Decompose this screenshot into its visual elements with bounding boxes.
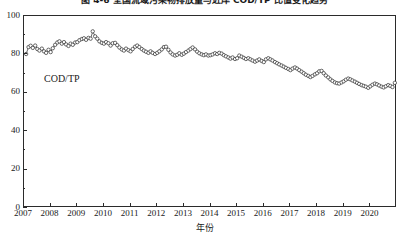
y-tick-label: 100: [0, 11, 20, 20]
y-tick-label: 80: [0, 49, 20, 58]
x-tick-label: 2020: [354, 208, 384, 218]
x-tick-mark: [156, 203, 157, 207]
y-tick-label: 60: [0, 87, 20, 96]
y-tick-minor: [23, 34, 25, 35]
y-tick-mark: [23, 169, 27, 170]
x-tick-mark: [130, 203, 131, 207]
x-tick-label: 2019: [328, 208, 358, 218]
series-plot: [24, 16, 397, 208]
y-tick-label: 20: [0, 164, 20, 173]
x-axis-title: 年份: [0, 223, 409, 234]
x-tick-mark: [236, 203, 237, 207]
x-tick-label: 2008: [35, 208, 65, 218]
x-tick-mark: [369, 203, 370, 207]
y-tick-minor: [23, 111, 25, 112]
x-tick-label: 2017: [274, 208, 304, 218]
x-tick-label: 2015: [221, 208, 251, 218]
x-tick-mark: [210, 203, 211, 207]
x-tick-mark: [50, 203, 51, 207]
series-annotation-label: COD/TP: [44, 73, 80, 84]
y-tick-minor: [23, 73, 25, 74]
x-tick-label: 2009: [61, 208, 91, 218]
x-tick-label: 2018: [301, 208, 331, 218]
y-tick-mark: [23, 53, 27, 54]
y-tick-mark: [23, 130, 27, 131]
y-tick-label: 40: [0, 126, 20, 135]
x-tick-mark: [343, 203, 344, 207]
chart-title: 图 4-6 全国流域污染物排放量与近岸 COD/TP 比值变化趋势: [0, 0, 409, 6]
x-tick-label: 2012: [141, 208, 171, 218]
y-tick-minor: [23, 149, 25, 150]
x-tick-label: 2010: [88, 208, 118, 218]
y-tick-mark: [23, 15, 27, 16]
series-markers-cod-tp: [24, 30, 396, 90]
x-tick-mark: [316, 203, 317, 207]
plot-area: [23, 15, 396, 207]
x-tick-mark: [76, 203, 77, 207]
x-tick-label: 2016: [248, 208, 278, 218]
x-tick-label: 2013: [168, 208, 198, 218]
x-tick-mark: [103, 203, 104, 207]
x-tick-label: 2011: [115, 208, 145, 218]
x-tick-label: 2007: [8, 208, 38, 218]
x-tick-mark: [23, 203, 24, 207]
x-tick-mark: [183, 203, 184, 207]
x-tick-mark: [289, 203, 290, 207]
y-tick-minor: [23, 188, 25, 189]
x-tick-label: 2014: [195, 208, 225, 218]
chart-figure: 图 4-6 全国流域污染物排放量与近岸 COD/TP 比值变化趋势 020406…: [0, 0, 409, 243]
x-tick-mark: [263, 203, 264, 207]
y-tick-mark: [23, 92, 27, 93]
